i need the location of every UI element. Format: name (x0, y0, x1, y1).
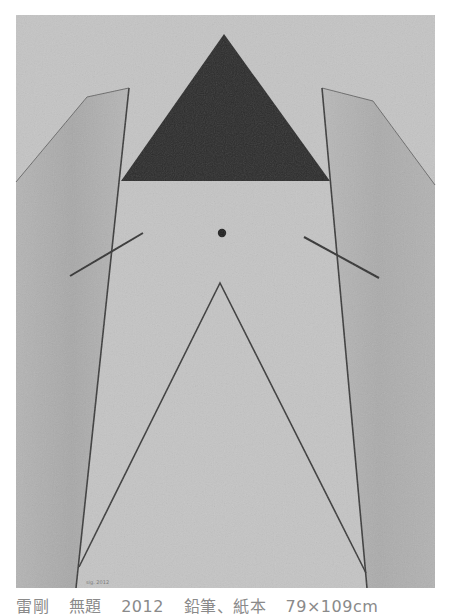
caption-size: 79×109cm (286, 597, 379, 615)
artwork-drawing: sig. 2012 (0, 0, 451, 595)
caption-artist: 雷剛 (16, 597, 49, 615)
caption-title: 無題 (69, 597, 102, 615)
caption-medium: 鉛筆、紙本 (184, 597, 267, 615)
artwork-caption: 雷剛 無題 2012 鉛筆、紙本 79×109cm (16, 596, 392, 615)
caption-year: 2012 (121, 597, 164, 615)
